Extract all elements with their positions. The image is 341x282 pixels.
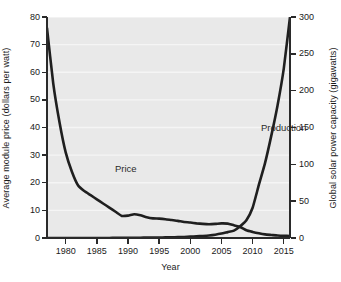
x-axis-tick <box>96 239 97 244</box>
x-axis-tick-label: 1990 <box>118 247 138 256</box>
y-axis-left-tick <box>42 210 47 211</box>
y-axis-right-tick <box>291 164 296 165</box>
y-axis-right-title: Global solar power capacity (gigawatts) <box>327 17 340 238</box>
y-axis-right-title-text: Global solar power capacity (gigawatts) <box>329 47 339 208</box>
x-axis-tick-label: 2000 <box>180 247 200 256</box>
x-axis-tick-label: 1980 <box>56 247 76 256</box>
x-axis-tick <box>190 239 191 244</box>
x-axis-tick <box>127 239 128 244</box>
y-axis-left-tick-label: 80 <box>30 13 40 22</box>
y-axis-right-tick <box>291 16 296 17</box>
y-axis-right-tick <box>291 200 296 201</box>
x-axis-spine <box>47 237 290 239</box>
solar-price-production-chart: Average module price (dollars per watt) … <box>0 0 341 282</box>
x-axis-tick <box>158 239 159 244</box>
y-axis-left-tick <box>42 99 47 100</box>
x-axis-tick <box>221 239 222 244</box>
y-axis-left-tick-label: 60 <box>30 68 40 77</box>
y-axis-left-title-text: Average module price (dollars per watt) <box>2 47 12 208</box>
x-axis-tick-label: 2005 <box>211 247 231 256</box>
y-axis-left-tick-label: 10 <box>30 206 40 215</box>
y-axis-right-ticks: 050100150200250300 <box>299 0 325 282</box>
y-axis-left-tick <box>42 182 47 183</box>
y-axis-left-tick-label: 20 <box>30 178 40 187</box>
x-axis-tick-label: 1995 <box>149 247 169 256</box>
y-axis-left-tick <box>42 16 47 17</box>
y-axis-left-tick <box>42 72 47 73</box>
y-axis-right-tick-label: 100 <box>299 160 314 169</box>
x-axis-tick <box>65 239 66 244</box>
y-axis-left-tick-label: 50 <box>30 95 40 104</box>
y-axis-right-tick <box>291 53 296 54</box>
series-annotation-price: Price <box>115 163 137 174</box>
y-axis-left-tick <box>42 127 47 128</box>
y-axis-right-tick <box>291 127 296 128</box>
x-axis-tick <box>283 239 284 244</box>
y-axis-left-tick-label: 70 <box>30 40 40 49</box>
y-axis-right-tick-label: 300 <box>299 13 314 22</box>
y-axis-right-tick-label: 200 <box>299 86 314 95</box>
plot-svg <box>47 17 290 238</box>
y-axis-right-tick-label: 0 <box>299 234 304 243</box>
y-axis-left-tick-label: 30 <box>30 151 40 160</box>
y-axis-right-tick <box>291 237 296 238</box>
y-axis-left-tick <box>42 154 47 155</box>
y-axis-right-tick-label: 250 <box>299 49 314 58</box>
x-axis-tick <box>252 239 253 244</box>
x-axis-tick-label: 2010 <box>243 247 263 256</box>
y-axis-left-tick-label: 40 <box>30 123 40 132</box>
y-axis-left-tick <box>42 237 47 238</box>
y-axis-left-ticks: 01020304050607080 <box>14 0 40 282</box>
x-axis-tick-label: 2015 <box>274 247 294 256</box>
series-annotation-production: Production <box>261 122 306 133</box>
y-axis-left-tick <box>42 44 47 45</box>
y-axis-left-title: Average module price (dollars per watt) <box>0 17 13 238</box>
x-axis-tick-label: 1985 <box>87 247 107 256</box>
y-axis-right-tick <box>291 90 296 91</box>
x-axis-title: Year <box>0 262 341 272</box>
y-axis-left-tick-label: 0 <box>35 234 40 243</box>
plot-area: Price Production <box>47 17 290 238</box>
y-axis-right-tick-label: 50 <box>299 197 309 206</box>
